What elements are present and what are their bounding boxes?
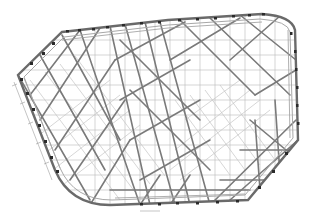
roof-inner-outline bbox=[24, 19, 293, 200]
drawing-canvas bbox=[0, 0, 310, 224]
primary-truss-members bbox=[18, 15, 298, 205]
roof-plan-drawing bbox=[0, 0, 310, 224]
secondary-members bbox=[24, 22, 290, 198]
